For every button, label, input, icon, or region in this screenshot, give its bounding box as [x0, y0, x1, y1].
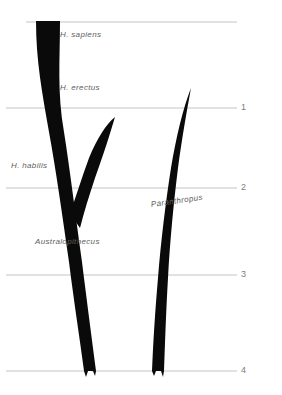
axis-tick-label-4: 4	[241, 366, 246, 375]
phylogeny-plot	[0, 0, 282, 395]
branch-bottom-tails	[84, 371, 164, 377]
taxon-label-h-habilis: H. habilis	[11, 162, 47, 170]
branch-bottom-notches	[86, 371, 161, 376]
axis-tick-label-1: 1	[241, 103, 246, 112]
taxon-label-h-sapiens: H. sapiens	[60, 31, 101, 39]
axis-tick-label-3: 3	[241, 270, 246, 279]
axis-title-millions-of-years: Millions of years	[281, 212, 282, 276]
branch-h-habilis	[70, 117, 115, 228]
taxon-label-australopithecus: Australopithecus	[35, 238, 100, 246]
taxon-label-h-erectus: H. erectus	[60, 84, 100, 92]
phylogeny-figure: H. sapiens H. erectus H. habilis Austral…	[0, 0, 282, 395]
branch-paranthropus	[152, 88, 191, 371]
axis-tick-label-2: 2	[241, 183, 246, 192]
